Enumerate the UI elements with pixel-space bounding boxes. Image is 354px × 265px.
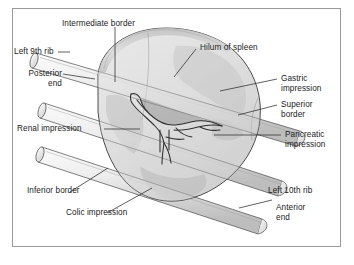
label-left-9th-rib: Left 9th rib: [14, 47, 54, 57]
label-superior-border: Superior border: [281, 100, 313, 119]
label-hilum-of-spleen: Hilum of spleen: [200, 43, 258, 53]
label-colic-impression: Colic impression: [66, 208, 127, 218]
leader-anterior-end: [239, 200, 272, 208]
label-posterior-end: Posterior end: [10, 69, 62, 88]
label-anterior-end: Anterior end: [276, 203, 305, 222]
label-left-10th-rib: Left 10th rib: [268, 186, 312, 196]
label-gastric-impression: Gastric impression: [281, 74, 321, 93]
label-pancreatic-impression: Pancreatic impression: [285, 130, 325, 149]
label-renal-impression: Renal impression: [17, 124, 82, 134]
label-intermediate-border: Intermediate border: [62, 19, 135, 29]
label-inferior-border: Inferior border: [27, 186, 80, 196]
figure-root: Intermediate border Left 9th rib Posteri…: [0, 0, 354, 265]
